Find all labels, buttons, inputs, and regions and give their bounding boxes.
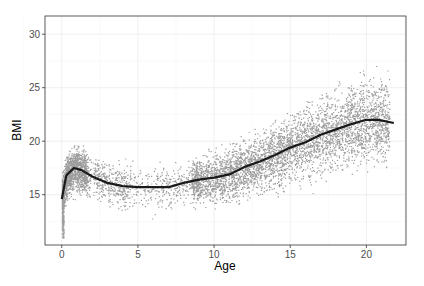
y-axis-title: BMI bbox=[10, 119, 24, 140]
x-tick-label: 20 bbox=[361, 249, 373, 260]
x-axis-title: Age bbox=[214, 259, 236, 273]
x-tick-label: 15 bbox=[285, 249, 297, 260]
x-axis: 05101520 bbox=[59, 245, 372, 260]
plot-panel bbox=[24, 16, 406, 245]
x-tick-label: 5 bbox=[135, 249, 141, 260]
scatter-chart: 05101520 15202530 Age BMI bbox=[0, 0, 424, 286]
y-tick-label: 30 bbox=[29, 29, 41, 40]
y-tick-label: 25 bbox=[29, 82, 41, 93]
x-tick-label: 0 bbox=[59, 249, 65, 260]
y-axis: 15202530 bbox=[29, 29, 45, 201]
y-tick-label: 15 bbox=[29, 189, 41, 200]
y-tick-label: 20 bbox=[29, 136, 41, 147]
